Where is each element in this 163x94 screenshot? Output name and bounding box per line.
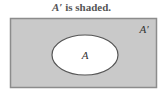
complement-label: A′ — [138, 23, 149, 35]
venn-diagram: A A′ — [0, 0, 163, 94]
set-a-label: A — [81, 49, 89, 61]
